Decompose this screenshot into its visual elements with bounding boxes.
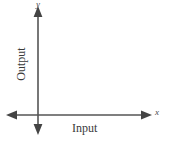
y-axis-variable-label: y bbox=[36, 0, 40, 9]
axes-figure: y x Input Output bbox=[0, 0, 170, 159]
x-axis-name-label: Input bbox=[72, 122, 97, 134]
x-axis-right-arrowhead bbox=[141, 111, 152, 120]
x-axis-variable-label: x bbox=[155, 108, 159, 117]
x-axis-left-arrowhead bbox=[6, 111, 17, 120]
y-axis-bottom-arrowhead bbox=[34, 124, 43, 135]
y-axis-name-label: Output bbox=[15, 47, 27, 80]
